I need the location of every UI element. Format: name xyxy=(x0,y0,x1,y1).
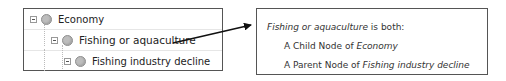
callout-subject: Fishing or aquaculture xyxy=(267,22,368,32)
callout-child-relation: A Child Node of Economy xyxy=(284,41,398,51)
relationship-callout: Fishing or aquaculture is both: A Child … xyxy=(256,8,488,75)
callout-line3-prefix: A Parent Node of xyxy=(284,60,363,70)
callout-line2-prefix: A Child Node of xyxy=(284,41,356,51)
callout-heading: Fishing or aquaculture is both: xyxy=(267,22,404,32)
callout-parent-relation: A Parent Node of Fishing industry declin… xyxy=(284,60,470,70)
callout-parent-node: Economy xyxy=(356,41,397,51)
callout-child-node: Fishing industry decline xyxy=(363,60,470,70)
callout-subject-suffix: is both: xyxy=(368,22,404,32)
